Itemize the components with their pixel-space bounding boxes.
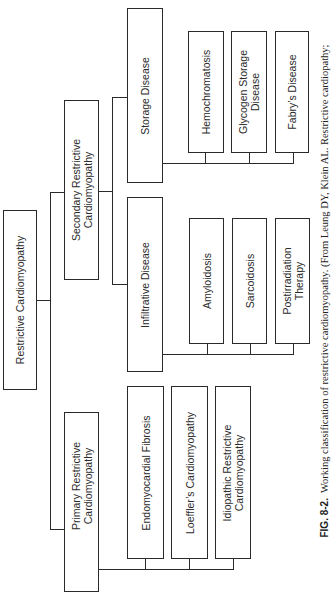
node-label: Primary RestrictiveCardiomyopathy (70, 442, 94, 530)
connector (112, 284, 127, 285)
connector (112, 97, 113, 285)
node-label: Glycogen StorageDisease (237, 50, 261, 134)
connector (207, 343, 208, 354)
connector (250, 343, 251, 354)
node-label: Loeffler’s Cardiomyopathy (184, 412, 196, 534)
node-label: Sarcoidosis (244, 254, 256, 308)
node-secondary-restrictive-cardiomyopathy: Secondary RestrictiveCardiomyopathy (64, 100, 99, 280)
connector (163, 354, 294, 355)
node-sarcoidosis: Sarcoidosis (232, 218, 267, 344)
node-hemochromatosis: Hemochromatosis (188, 31, 224, 153)
connector (293, 343, 294, 355)
connector (112, 97, 127, 98)
figure-label: FIG. 8-2. (319, 498, 330, 537)
node-label: Restrictive Cardiomyopathy (14, 236, 26, 364)
node-label: Infiltrative Disease (139, 242, 151, 328)
node-primary-restrictive-cardiomyopathy: Primary RestrictiveCardiomyopathy (64, 412, 99, 592)
connector (50, 192, 64, 193)
node-label: Idiopathic RestrictiveCardiomyopathy (221, 424, 245, 521)
node-label: Endomyocardial Fibrosis (140, 415, 152, 530)
node-endomyocardial-fibrosis: Endomyocardial Fibrosis (127, 386, 164, 559)
connector (50, 192, 51, 530)
connector (37, 300, 50, 301)
connector (99, 569, 234, 570)
node-label: Amyloidosis (201, 253, 213, 309)
node-label: Storage Disease (139, 57, 151, 135)
node-postirradiation-therapy: PostirradiationTherapy (275, 218, 310, 344)
figure-caption: FIG. 8-2. Working classification of rest… (319, 44, 330, 537)
node-loefflers-cardiomyopathy: Loeffler’s Cardiomyopathy (171, 386, 208, 559)
node-label: Secondary RestrictiveCardiomyopathy (70, 139, 94, 241)
connector (99, 191, 112, 192)
connector (50, 529, 64, 530)
connector (189, 558, 190, 569)
node-amyloidosis: Amyloidosis (189, 218, 224, 344)
node-label: Hemochromatosis (200, 50, 212, 135)
node-idiopathic-restrictive-cardiomyopathy: Idiopathic RestrictiveCardiomyopathy (215, 386, 251, 559)
node-label: Fabry’s Disease (286, 54, 298, 129)
node-glycogen-storage-disease: Glycogen StorageDisease (231, 31, 267, 153)
connector (233, 558, 234, 570)
root-node-restrictive-cardiomyopathy: Restrictive Cardiomyopathy (3, 210, 37, 390)
node-fabrys-disease: Fabry’s Disease (275, 31, 309, 153)
caption-text: Working classification of restrictive ca… (319, 44, 330, 493)
node-storage-disease: Storage Disease (127, 8, 163, 183)
node-label: PostirradiationTherapy (281, 247, 305, 314)
connector (163, 163, 294, 164)
connector (293, 152, 294, 164)
node-infiltrative-disease: Infiltrative Disease (127, 197, 163, 372)
connector (249, 152, 250, 163)
connector (145, 558, 146, 569)
connector (205, 152, 206, 163)
